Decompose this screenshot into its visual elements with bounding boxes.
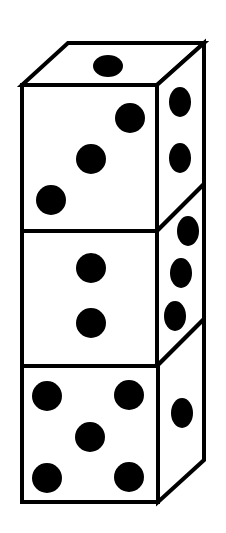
pip <box>114 462 144 492</box>
pip <box>169 87 191 117</box>
pip <box>114 380 144 410</box>
pip <box>115 103 145 133</box>
pip <box>76 308 106 338</box>
middle-die-front-face <box>22 231 157 366</box>
dice-stack-figure: Stack of three dice <box>0 0 226 533</box>
pip <box>164 301 186 331</box>
pip <box>177 216 199 246</box>
pip <box>32 463 62 493</box>
pip <box>170 258 192 288</box>
pip <box>32 381 62 411</box>
pip <box>36 185 66 215</box>
dice-stack-drawing <box>0 0 226 533</box>
pip <box>169 143 191 173</box>
pip <box>75 422 105 452</box>
pip <box>76 253 106 283</box>
pip <box>76 144 106 174</box>
bottom-die-side-pip <box>171 398 193 428</box>
top-face-pip <box>93 55 123 77</box>
